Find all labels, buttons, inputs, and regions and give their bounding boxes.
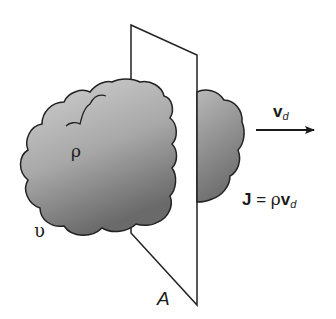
current-density-diagram: ρ υ A vd J = ρvd xyxy=(0,0,336,319)
drift-velocity-label: vd xyxy=(273,103,289,120)
upsilon-symbol: υ xyxy=(34,220,45,241)
equation-rho-symbol: ρ xyxy=(271,189,281,209)
equals-sign: = xyxy=(251,190,270,209)
surface-label: A xyxy=(157,289,170,308)
current-density-equation: J = ρvd xyxy=(242,191,296,208)
velocity-subscript: d xyxy=(282,110,288,122)
surface-a-symbol: A xyxy=(157,288,170,309)
charge-cloud-left xyxy=(21,79,177,235)
volume-label: υ xyxy=(34,222,45,240)
rho-symbol: ρ xyxy=(71,141,81,161)
charge-cloud-right xyxy=(197,90,244,202)
diagram-canvas xyxy=(0,0,336,319)
charge-density-label: ρ xyxy=(71,143,81,160)
equation-v-symbol: v xyxy=(281,190,290,209)
equation-subscript: d xyxy=(290,198,296,210)
